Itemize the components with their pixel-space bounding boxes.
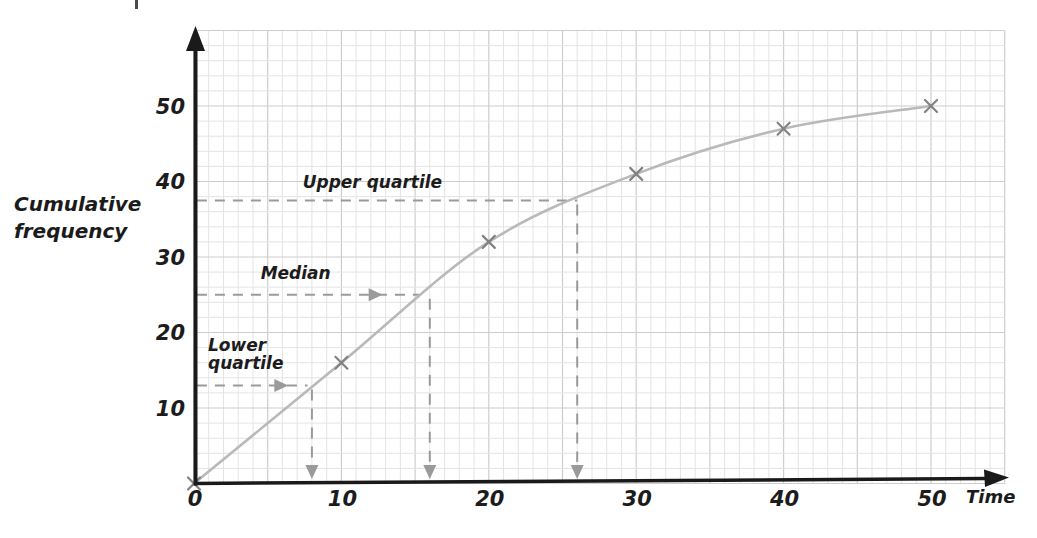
y-tick-label: 20 xyxy=(156,321,185,345)
y-tick-label: 50 xyxy=(156,95,185,119)
x-tick-label: 50 xyxy=(917,487,946,511)
lower-quartile-down-arrowhead xyxy=(305,465,318,479)
x-tick-label: 40 xyxy=(769,487,799,511)
lower-quartile-right-arrowhead xyxy=(274,379,288,392)
y-tick-label: 10 xyxy=(156,397,185,421)
grid-paper xyxy=(194,31,1005,484)
median-right-arrowhead xyxy=(369,288,383,301)
upper-quartile-label: Upper quartile xyxy=(303,172,442,192)
cumulative-frequency-chart: Upper quartileMedianLowerquartile1020304… xyxy=(0,0,1037,538)
x-axis-line xyxy=(194,479,986,484)
x-tick-label: 10 xyxy=(328,487,357,511)
median-down-arrowhead xyxy=(423,465,436,479)
x-tick-label: 20 xyxy=(475,487,504,511)
x-tick-label: 0 xyxy=(188,487,203,511)
lower-quartile-label: Lowerquartile xyxy=(208,335,283,373)
y-axis-title: Cumulative frequency xyxy=(14,191,156,245)
figure-canvas: Upper quartileMedianLowerquartile1020304… xyxy=(0,0,1037,538)
upper-quartile-down-arrowhead xyxy=(571,465,584,479)
y-tick-label: 30 xyxy=(156,246,185,270)
x-axis-title: Time xyxy=(966,486,1015,507)
annotation-lower-quartile: Lowerquartile xyxy=(197,335,319,479)
y-tick-label: 40 xyxy=(155,170,185,194)
x-tick-label: 30 xyxy=(623,487,652,511)
cropped-ink-artifact xyxy=(135,0,138,9)
y-axis-arrowhead xyxy=(186,26,205,51)
median-label: Median xyxy=(261,263,331,283)
